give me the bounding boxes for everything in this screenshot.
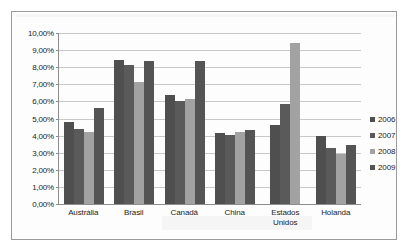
y-tick-label: 3,00% — [32, 148, 54, 157]
bars-layer — [59, 33, 361, 204]
bar[interactable] — [290, 43, 300, 204]
legend-label: 2007 — [378, 131, 395, 140]
x-axis-label: Canadá — [159, 208, 210, 228]
bar[interactable] — [336, 154, 346, 204]
y-tick-label: 9,00% — [32, 46, 54, 55]
bar[interactable] — [316, 136, 326, 204]
bar-group — [210, 33, 260, 204]
legend-swatch-icon — [370, 149, 375, 154]
bar-group — [109, 33, 159, 204]
legend-item[interactable]: 2008 — [370, 143, 408, 159]
chart-frame: 0,00%1,00%2,00%3,00%4,00%5,00%6,00%7,00%… — [11, 11, 397, 240]
legend-label: 2008 — [378, 147, 395, 156]
y-tick-label: 7,00% — [32, 80, 54, 89]
scan-artifact — [16, 14, 394, 17]
legend-swatch-icon — [370, 165, 375, 170]
bar[interactable] — [175, 101, 185, 204]
bar[interactable] — [235, 132, 245, 204]
x-axis-label: China — [210, 208, 261, 228]
y-tick-mark — [56, 204, 59, 205]
bar[interactable] — [74, 129, 84, 204]
y-tick-label: 2,00% — [32, 165, 54, 174]
legend-label: 2006 — [378, 115, 395, 124]
y-tick-label: 10,00% — [28, 29, 54, 38]
legend-item[interactable]: 2006 — [370, 111, 408, 127]
y-tick-label: 5,00% — [32, 114, 54, 123]
bar[interactable] — [94, 108, 104, 204]
bar[interactable] — [124, 65, 134, 204]
bar[interactable] — [134, 82, 144, 204]
x-axis-label: Austrália — [58, 208, 109, 228]
x-axis-label: Holanda — [311, 208, 362, 228]
bar-group — [260, 33, 310, 204]
bar[interactable] — [346, 145, 356, 204]
x-axis-label: Brasil — [109, 208, 160, 228]
bar[interactable] — [185, 99, 195, 204]
legend: 2006200720082009 — [370, 111, 408, 175]
bar[interactable] — [84, 132, 94, 204]
y-tick-label: 0,00% — [32, 200, 54, 209]
bar[interactable] — [195, 61, 205, 204]
bar[interactable] — [215, 133, 225, 204]
legend-item[interactable]: 2009 — [370, 159, 408, 175]
bar[interactable] — [114, 60, 124, 204]
y-tick-label: 1,00% — [32, 182, 54, 191]
bar[interactable] — [326, 148, 336, 204]
y-tick-label: 4,00% — [32, 131, 54, 140]
bar-group — [160, 33, 210, 204]
bar[interactable] — [165, 95, 175, 204]
plot-area: 0,00%1,00%2,00%3,00%4,00%5,00%6,00%7,00%… — [58, 33, 361, 205]
bar[interactable] — [225, 135, 235, 204]
bar[interactable] — [144, 61, 154, 204]
y-tick-label: 6,00% — [32, 97, 54, 106]
legend-item[interactable]: 2007 — [370, 127, 408, 143]
legend-swatch-icon — [370, 117, 375, 122]
bar-group — [311, 33, 361, 204]
x-axis-label: Estados Unidos — [260, 208, 311, 228]
bar[interactable] — [280, 104, 290, 204]
legend-label: 2009 — [378, 163, 395, 172]
bar[interactable] — [245, 130, 255, 204]
x-axis-labels: AustráliaBrasilCanadáChinaEstados Unidos… — [58, 208, 361, 228]
bar[interactable] — [64, 122, 74, 204]
y-tick-label: 8,00% — [32, 63, 54, 72]
bar-group — [59, 33, 109, 204]
legend-swatch-icon — [370, 133, 375, 138]
bar[interactable] — [270, 125, 280, 205]
